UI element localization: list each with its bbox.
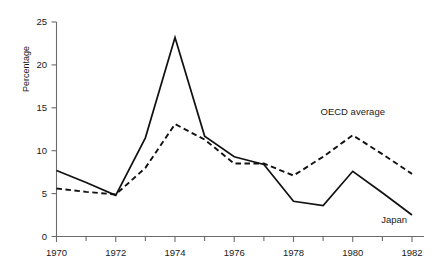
- y-tick-label: 0: [42, 231, 47, 242]
- x-tick-label: 1980: [342, 247, 363, 258]
- line-chart: Percentage 0510152025 197019721974197619…: [0, 0, 445, 276]
- x-tick-label: 1974: [164, 247, 185, 258]
- series-annotations: OECD averageJapan: [321, 106, 408, 225]
- y-tick-label: 15: [36, 102, 47, 113]
- y-tick-label: 25: [36, 16, 47, 27]
- x-tick-label: 1976: [224, 247, 245, 258]
- x-axis-ticks: 1970197219741976197819801982: [46, 237, 423, 259]
- series-lines: [57, 37, 413, 215]
- series-line-oecd-average: [57, 124, 413, 194]
- chart-canvas: Percentage 0510152025 197019721974197619…: [0, 0, 445, 276]
- y-axis-ticks: 0510152025: [36, 16, 56, 242]
- y-axis-title: Percentage: [21, 46, 31, 92]
- series-label-japan: Japan: [381, 214, 407, 225]
- x-tick-label: 1978: [283, 247, 304, 258]
- y-tick-label: 10: [36, 145, 47, 156]
- series-line-japan: [57, 37, 413, 215]
- y-tick-label: 5: [42, 188, 47, 199]
- y-tick-label: 20: [36, 59, 47, 70]
- x-tick-label: 1970: [46, 247, 67, 258]
- x-tick-label: 1982: [401, 247, 422, 258]
- series-label-oecd-average: OECD average: [321, 106, 385, 117]
- x-tick-label: 1972: [105, 247, 126, 258]
